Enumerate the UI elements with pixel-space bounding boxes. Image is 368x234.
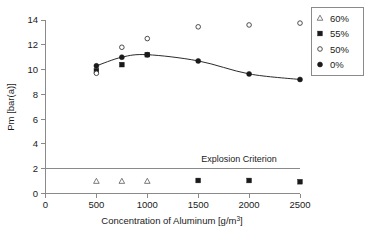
data-point-0pct xyxy=(298,77,303,82)
y-axis-title: Pm [bar(a)] xyxy=(5,83,16,131)
data-point-55pct xyxy=(119,62,124,67)
series-50pct xyxy=(94,21,302,76)
x-axis-tick-labels: 05001000150020002500 xyxy=(43,199,311,210)
series-55pct xyxy=(94,52,302,184)
data-point-0pct xyxy=(119,55,124,60)
data-point-0pct xyxy=(145,52,150,57)
data-point-50pct xyxy=(94,71,99,76)
x-tick-label: 2000 xyxy=(239,199,260,210)
chart-container: 02468101214 05001000150020002500 Pm [bar… xyxy=(0,0,368,234)
data-point-55pct xyxy=(298,179,303,184)
data-point-0pct xyxy=(196,58,201,63)
x-tick-label: 2500 xyxy=(289,199,310,210)
explosion-criterion-label: Explosion Criterion xyxy=(201,154,277,164)
data-point-55pct xyxy=(247,178,252,183)
legend-item-label: 50% xyxy=(330,44,350,55)
x-axis-title-tail: ] xyxy=(240,215,243,226)
x-axis-title-main: Concentration of Aluminum [g/m xyxy=(101,215,236,226)
legend-item-label: 55% xyxy=(330,28,350,39)
y-tick-label: 4 xyxy=(33,138,38,149)
data-point-60pct xyxy=(145,178,151,183)
axes xyxy=(46,20,301,194)
y-axis-tick-labels: 02468101214 xyxy=(27,14,38,199)
data-point-60pct xyxy=(94,178,100,183)
data-point-60pct xyxy=(119,178,125,183)
data-point-0pct xyxy=(94,63,99,68)
x-axis-title: Concentration of Aluminum [g/m3] xyxy=(101,215,242,227)
data-point-0pct xyxy=(318,62,323,67)
legend-item-label: 0% xyxy=(330,59,344,70)
x-tick-label: 1500 xyxy=(188,199,209,210)
x-axis-ticks xyxy=(46,194,301,199)
legend: 60%55%50%0% xyxy=(312,8,364,76)
x-tick-label: 500 xyxy=(88,199,104,210)
data-point-55pct xyxy=(318,31,323,36)
y-tick-label: 14 xyxy=(27,14,38,25)
y-tick-label: 0 xyxy=(33,188,38,199)
y-tick-label: 2 xyxy=(33,163,38,174)
data-point-50pct xyxy=(318,47,323,52)
data-point-50pct xyxy=(298,21,303,26)
y-tick-label: 6 xyxy=(33,114,38,125)
y-tick-label: 12 xyxy=(27,39,38,50)
data-point-50pct xyxy=(145,36,150,41)
x-tick-label: 1000 xyxy=(137,199,158,210)
x-tick-label: 0 xyxy=(43,199,48,210)
svg-text:Concentration of Aluminum [g/m: Concentration of Aluminum [g/m3] xyxy=(101,215,242,227)
data-point-0pct xyxy=(247,71,252,76)
data-point-50pct xyxy=(196,25,201,30)
legend-item-label: 60% xyxy=(330,13,350,24)
y-tick-label: 10 xyxy=(27,64,38,75)
data-point-55pct xyxy=(196,178,201,183)
pressure-vs-concentration-chart: 02468101214 05001000150020002500 Pm [bar… xyxy=(0,0,368,234)
data-point-50pct xyxy=(120,45,125,50)
chart-annotations: Explosion Criterion xyxy=(201,154,277,164)
data-point-50pct xyxy=(247,23,252,28)
series-60pct xyxy=(94,178,151,183)
y-tick-label: 8 xyxy=(33,89,38,100)
y-axis-ticks xyxy=(41,20,46,194)
